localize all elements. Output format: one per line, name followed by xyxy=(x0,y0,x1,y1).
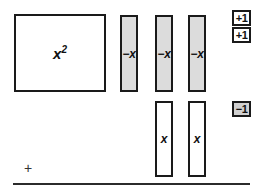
tile-positive-x-1[interactable]: x xyxy=(155,101,173,177)
tile-unit-positive-2[interactable]: +1 xyxy=(232,27,251,43)
tile-positive-x-2[interactable]: x xyxy=(188,101,206,177)
tile-negative-x-1[interactable]: −x xyxy=(120,15,138,92)
tile-negative-x-1-label: −x xyxy=(122,48,136,60)
tile-positive-x-2-label: x xyxy=(194,133,201,145)
tile-unit-positive-1[interactable]: +1 xyxy=(232,10,251,26)
tile-unit-positive-2-label: +1 xyxy=(236,30,248,41)
tile-positive-x-1-label: x xyxy=(161,133,168,145)
tile-negative-x-3[interactable]: −x xyxy=(188,15,206,92)
plus-operator: + xyxy=(22,161,34,175)
algebra-tiles-diagram: x2 −x −x −x x x +1 +1 −1 + xyxy=(0,0,262,194)
tile-unit-negative-1-label: −1 xyxy=(236,104,248,115)
tile-negative-x-3-label: −x xyxy=(190,48,204,60)
tile-negative-x-2[interactable]: −x xyxy=(155,15,173,92)
tile-negative-x-2-label: −x xyxy=(157,48,171,60)
tile-unit-negative-1[interactable]: −1 xyxy=(232,101,251,117)
tile-x-squared[interactable]: x2 xyxy=(14,14,106,92)
tile-x-squared-label: x2 xyxy=(53,45,67,61)
horizontal-divider xyxy=(13,183,250,185)
tile-unit-positive-1-label: +1 xyxy=(236,13,248,24)
tile-x-squared-exponent: 2 xyxy=(61,44,67,55)
